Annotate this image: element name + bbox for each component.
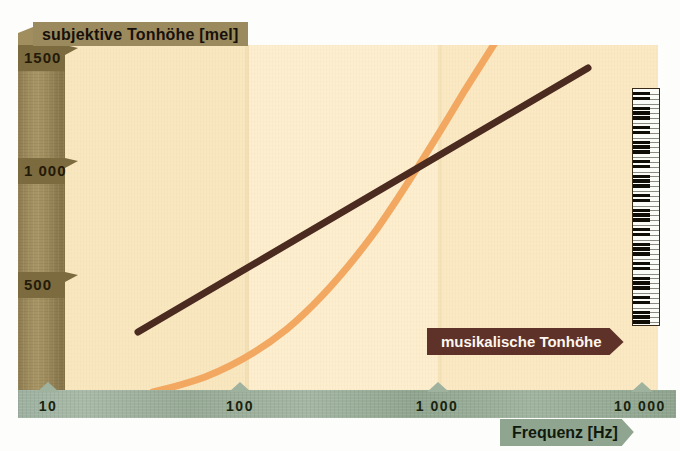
piano-black-key — [633, 145, 650, 148]
piano-black-key — [633, 150, 650, 153]
y-axis-tick-1500: 1500 — [18, 45, 78, 71]
piano-black-key — [633, 301, 650, 304]
x-axis-tick-1000: 1 000 — [404, 390, 470, 418]
piano-black-key — [633, 141, 650, 144]
piano-white-key-divider — [633, 308, 659, 309]
piano-black-key — [633, 286, 650, 289]
piano-keyboard-icon — [632, 88, 660, 326]
piano-black-key — [633, 320, 650, 323]
piano-black-key — [633, 165, 650, 168]
piano-white-key-divider — [633, 240, 659, 241]
piano-white-key-divider — [633, 259, 659, 260]
piano-black-key — [633, 311, 650, 314]
piano-black-key — [633, 116, 650, 119]
piano-white-key-divider — [633, 157, 659, 158]
y-axis-title: subjektive Tonhöhe [mel] — [33, 22, 248, 46]
piano-black-key — [633, 97, 650, 100]
piano-black-key — [633, 252, 650, 255]
y-axis-bar — [18, 45, 65, 390]
piano-black-key — [633, 247, 650, 250]
piano-white-key-divider — [633, 172, 659, 173]
x-axis-tick-10: 10 — [28, 390, 68, 418]
y-axis-grain — [18, 45, 65, 390]
piano-white-key-divider — [633, 123, 659, 124]
piano-black-key — [633, 315, 650, 318]
piano-black-key — [633, 277, 650, 280]
piano-black-key — [633, 213, 650, 216]
x-axis-grain — [18, 390, 676, 418]
piano-black-key — [633, 218, 650, 221]
piano-black-key — [633, 92, 650, 95]
piano-black-key — [633, 267, 650, 270]
piano-black-key — [633, 131, 650, 134]
x-axis-tick-10000: 10 000 — [600, 390, 680, 418]
piano-black-key — [633, 281, 650, 284]
piano-white-key-divider — [633, 206, 659, 207]
piano-black-key — [633, 243, 650, 246]
piano-white-key-divider — [633, 191, 659, 192]
piano-black-key — [633, 199, 650, 202]
y-axis-tick-1000: 1 000 — [18, 158, 78, 184]
x-axis-tick-100: 100 — [215, 390, 265, 418]
piano-white-key-divider — [633, 293, 659, 294]
piano-white-key-divider — [633, 274, 659, 275]
piano-black-key — [633, 228, 650, 231]
piano-black-key — [633, 233, 650, 236]
piano-black-key — [633, 160, 650, 163]
x-axis-bar — [18, 390, 676, 418]
series-label-musikalische-tonhoehe: musikalische Tonhöhe — [427, 328, 624, 355]
piano-black-key — [633, 262, 650, 265]
x-axis-title: Frequenz [Hz] — [500, 419, 634, 446]
piano-white-key-divider — [633, 138, 659, 139]
piano-black-key — [633, 194, 650, 197]
figure-root: musikalische Tonhöhe 1500 1 000 500 subj… — [0, 0, 680, 451]
line-musical-pitch — [138, 68, 588, 332]
y-axis-tick-500: 500 — [18, 272, 78, 298]
piano-black-key — [633, 111, 650, 114]
piano-black-key — [633, 175, 650, 178]
piano-black-key — [633, 184, 650, 187]
piano-white-key-divider — [633, 225, 659, 226]
piano-black-key — [633, 179, 650, 182]
piano-black-key — [633, 126, 650, 129]
piano-black-key — [633, 209, 650, 212]
piano-white-key-divider — [633, 104, 659, 105]
piano-black-key — [633, 296, 650, 299]
piano-black-key — [633, 107, 650, 110]
